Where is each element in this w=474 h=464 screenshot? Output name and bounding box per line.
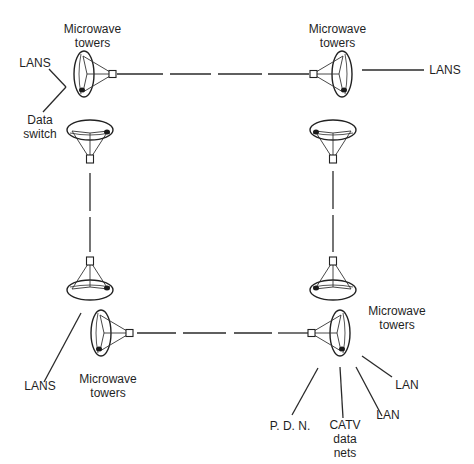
tower-bottom-left-vertical	[67, 257, 113, 300]
label-top-left-lans: LANS	[18, 56, 52, 70]
label-pdn: P. D. N.	[265, 419, 315, 433]
connector-bottom-left-lans	[44, 313, 81, 382]
label-bottom-right-towers: Microwave towers	[365, 304, 429, 332]
tower-bottom-right-horizontal	[308, 310, 350, 356]
label-lan-upper: LAN	[392, 378, 422, 392]
diagram-canvas	[0, 0, 474, 464]
label-lan-lower: LAN	[373, 408, 403, 422]
label-top-right-towers: Microwave towers	[305, 22, 370, 50]
connector-top-left-switch	[43, 69, 66, 112]
tower-top-left-horizontal	[74, 51, 116, 97]
tower-top-right-vertical	[310, 120, 356, 163]
label-top-right-lans: LANS	[425, 63, 465, 77]
label-top-left-towers: Microwave towers	[60, 22, 125, 50]
label-bottom-left-lans: LANS	[22, 379, 58, 393]
tower-top-left-vertical	[67, 120, 113, 163]
tower-bottom-right-vertical	[310, 257, 356, 300]
microwave-network-diagram: Microwave towers Microwave towers LANS D…	[0, 0, 474, 464]
tower-bottom-left-horizontal	[91, 310, 133, 356]
label-catv-data-nets: CATV data nets	[325, 418, 365, 460]
label-data-switch: Data switch	[20, 113, 60, 141]
tower-top-right-horizontal	[310, 51, 352, 97]
label-bottom-left-towers: Microwave towers	[78, 372, 138, 400]
